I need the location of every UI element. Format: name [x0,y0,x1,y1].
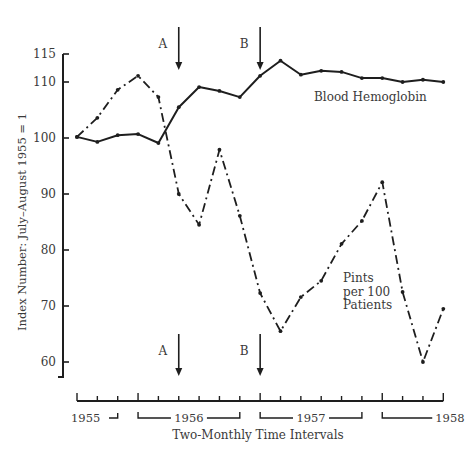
data-point [197,223,201,227]
y-tick-label: 110 [33,75,56,89]
x-axis: 1955195619571958Two-Monthly Time Interva… [71,393,465,442]
data-point [319,69,323,73]
year-label: 1956 [174,411,203,425]
data-point [136,74,140,78]
year-label: 1958 [435,411,464,425]
arrow-label: B [240,37,249,51]
series-layer [75,59,445,364]
data-point [75,135,79,139]
data-point [279,59,283,63]
arrow-label: A [157,344,167,358]
data-point [441,80,445,84]
data-point [136,132,140,136]
year-group-1955: 1955 [71,411,118,425]
arrow-B-bottom: B [240,334,264,376]
y-tick-label: 80 [41,243,56,257]
pints-line [77,76,443,362]
data-point [319,279,323,283]
arrow-A-bottom: A [157,334,182,376]
data-point [421,78,425,82]
data-point [401,290,405,294]
arrow-label: A [157,37,167,51]
year-group-1957: 1957 [260,411,362,425]
data-point [258,74,262,78]
data-point [177,192,181,196]
annotation-layer: AABB [157,27,263,376]
hemoglobin-series-label: Blood Hemoglobin [314,90,427,104]
data-point [258,291,262,295]
data-point [116,88,120,92]
label-layer: Blood HemoglobinPintsper 100Patients [314,90,427,312]
data-point [299,295,303,299]
year-label: 1955 [71,411,100,425]
pints-series-label: Pints [343,271,374,285]
data-point [299,73,303,77]
year-group-1956: 1956 [138,411,240,425]
data-point [238,214,242,218]
data-point [157,95,161,99]
data-point [360,76,364,80]
y-axis: 60708090100110115Index Number: July–Augu… [15,47,69,377]
y-tick-label: 100 [33,131,56,145]
data-point [218,89,222,93]
hemoglobin-pints-chart: 60708090100110115Index Number: July–Augu… [0,0,468,451]
data-point [177,105,181,109]
data-point [360,219,364,223]
data-point [95,140,99,144]
data-point [340,70,344,74]
pints-series-label: Patients [343,298,392,312]
data-point [116,133,120,137]
pints-series-label: per 100 [343,285,390,299]
data-point [157,141,161,145]
y-tick-label: 90 [41,187,56,201]
data-point [279,329,283,333]
arrow-label: B [240,344,249,358]
data-point [95,116,99,120]
arrow-A-top: A [157,27,182,70]
data-point [401,80,405,84]
data-point [421,360,425,364]
arrow-B-top: B [240,27,264,70]
year-group-1958: 1958 [382,411,464,425]
y-tick-label: 115 [33,47,56,61]
y-tick-label: 70 [41,299,56,313]
data-point [441,307,445,311]
data-point [380,76,384,80]
data-point [197,85,201,89]
y-axis-title: Index Number: July–August 1955 = 1 [15,113,29,331]
year-label: 1957 [296,411,325,425]
data-point [238,95,242,99]
data-point [380,180,384,184]
data-point [218,148,222,152]
y-tick-label: 60 [41,355,56,369]
x-axis-title: Two-Monthly Time Intervals [172,428,344,442]
data-point [340,242,344,246]
